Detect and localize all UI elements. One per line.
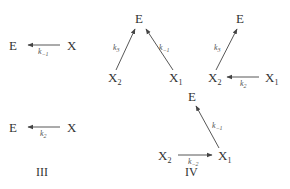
rate-label-k-1: k−1 — [212, 121, 223, 131]
node-X1: X1 — [218, 148, 231, 165]
rate-label: k−1 — [38, 47, 49, 57]
node-E: E — [135, 11, 143, 26]
rate-label-k-1: k−1 — [159, 43, 170, 53]
rate-label-k3: k3 — [113, 43, 120, 53]
node-E: E — [9, 38, 17, 53]
scheme-label-IV: IV — [185, 165, 198, 179]
node-X2: X2 — [158, 148, 171, 165]
scheme-label-III: III — [36, 165, 48, 179]
reaction-schemes-diagram: E X k−1 E X2 X1 k3 k−1 E X2 X1 k3 k2 E X… — [0, 0, 290, 189]
node-X1: X1 — [169, 70, 182, 87]
node-E: E — [188, 89, 196, 104]
scheme-2: E X2 X1 k3 k−1 — [108, 11, 182, 87]
node-E: E — [9, 120, 17, 135]
scheme-3: E X2 X1 k3 k2 — [208, 11, 278, 89]
node-X2: X2 — [208, 70, 221, 87]
rate-label-k2: k2 — [40, 129, 47, 139]
rate-label-k3: k3 — [214, 43, 221, 53]
scheme-1: E X k−1 — [9, 38, 77, 57]
node-X2: X2 — [108, 70, 121, 87]
scheme-III: E X k2 III — [9, 120, 77, 179]
scheme-IV: E X2 X1 k−1 k−2 IV — [158, 89, 231, 179]
node-X: X — [67, 38, 77, 53]
node-E: E — [236, 11, 244, 26]
rate-label-k2: k2 — [240, 79, 247, 89]
node-X1: X1 — [265, 70, 278, 87]
node-X: X — [67, 120, 77, 135]
